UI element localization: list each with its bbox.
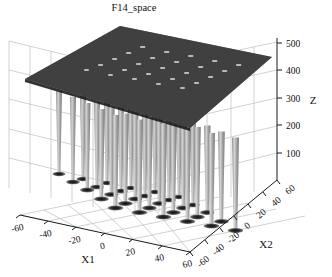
z-axis-label: Z (310, 94, 317, 106)
spike-column (53, 91, 66, 176)
x1-tick-label: 60 (182, 258, 194, 270)
z-axis-ticks: 100 200 300 400 500 Z (277, 39, 317, 159)
page-title: F14_space (112, 2, 157, 13)
x1-tick-label: -40 (38, 228, 53, 240)
z-tick-label: 500 (286, 39, 301, 49)
spike-column (66, 97, 80, 184)
z-tick-label: 400 (286, 66, 301, 76)
spike-column (214, 132, 229, 225)
x1-tick-label: 20 (125, 246, 137, 258)
figure-canvas: 100 200 300 400 500 Z -60 -40 -20 0 20 4… (0, 0, 332, 277)
x2-tick-label: -60 (195, 254, 211, 270)
x1-tick-label: -60 (10, 222, 25, 234)
x1-tick-label: 40 (154, 252, 166, 264)
z-tick-label: 300 (286, 94, 301, 104)
x1-tick-label: -20 (67, 234, 82, 246)
x1-tick-label: 0 (99, 241, 106, 252)
z-tick-label: 100 (286, 149, 301, 159)
x1-axis-label: X1 (81, 253, 94, 265)
x2-axis-label: X2 (259, 238, 272, 250)
x2-tick-label: 20 (254, 207, 268, 221)
z-tick-label: 200 (286, 121, 301, 131)
x2-tick-label: 40 (269, 195, 283, 209)
plateau-surface (25, 26, 272, 131)
x1-axis-ticks: -60 -40 -20 0 20 40 60 X1 (10, 215, 193, 270)
x2-tick-label: -40 (210, 242, 226, 258)
x2-tick-label: 60 (283, 183, 297, 197)
surface-plot-3d: 100 200 300 400 500 Z -60 -40 -20 0 20 4… (0, 0, 332, 277)
x2-tick-label: 0 (242, 220, 252, 231)
